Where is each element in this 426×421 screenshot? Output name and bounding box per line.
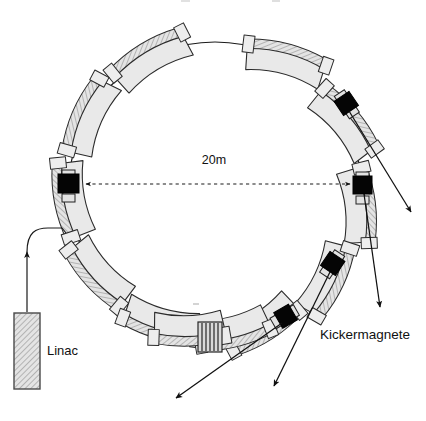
- diameter-dimension: 20m: [86, 153, 350, 184]
- dipole-magnets: [47, 22, 385, 360]
- kickermagnete-label: Kickermagnete: [320, 327, 410, 342]
- diagram-canvas: 20m Linac Kickermagnete: [0, 0, 426, 421]
- top-edge-artifact: [181, 0, 280, 2]
- injection-line-curve: [27, 228, 66, 252]
- synchrotron-diagram: 20m Linac Kickermagnete: [0, 0, 426, 421]
- ring-center-artifact: [193, 303, 199, 305]
- kicker-magnet-east: [353, 172, 372, 204]
- linac-label: Linac: [47, 343, 79, 358]
- rf-cavity: [198, 322, 222, 352]
- dipole-magnet: [300, 72, 385, 173]
- dipole-magnet: [47, 69, 132, 170]
- diameter-label: 20m: [202, 153, 226, 167]
- linac-box: [14, 313, 40, 389]
